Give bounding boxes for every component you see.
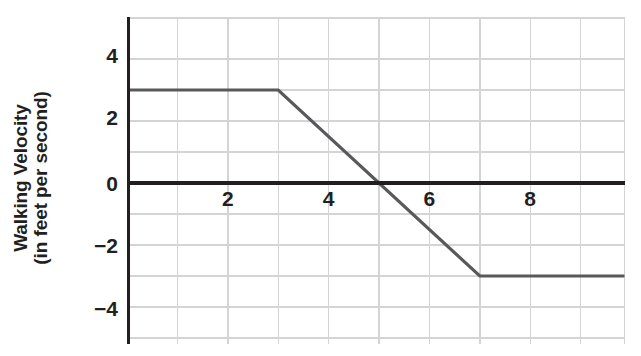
x-tick-label-8: 8 [505, 188, 555, 209]
y-tick-label-minus-2: −2 [76, 235, 118, 256]
x-tick-label-2: 2 [203, 188, 253, 209]
x-axis-tick-labels: 2 4 6 8 [127, 0, 641, 356]
y-tick-label-4: 4 [76, 45, 118, 66]
chart-figure: Walking Velocity (in feet per second) 4 … [0, 0, 641, 356]
x-tick-label-6: 6 [404, 188, 454, 209]
y-axis-title-line-2: (in feet per second) [31, 91, 51, 264]
y-axis-title-line-1: Walking Velocity [11, 104, 31, 252]
x-tick-label-4: 4 [304, 188, 354, 209]
y-axis-title: Walking Velocity (in feet per second) [0, 0, 60, 356]
y-axis-tick-labels: 4 2 0 −2 −4 [70, 0, 118, 356]
y-tick-label-0: 0 [76, 173, 118, 194]
y-tick-label-2: 2 [76, 107, 118, 128]
y-tick-label-minus-4: −4 [76, 298, 118, 319]
